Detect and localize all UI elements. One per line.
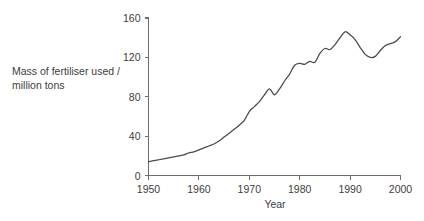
- y-tick-label: 120: [93, 52, 141, 63]
- x-axis-title: Year: [148, 198, 402, 210]
- y-axis-title: Mass of fertiliser used / million tons: [12, 64, 140, 92]
- axes-group: [149, 18, 401, 176]
- x-tick-marks: [149, 176, 401, 180]
- x-tick-label: 1960: [175, 184, 223, 195]
- x-tick-label: 2000: [377, 184, 424, 195]
- data-series-line: [149, 32, 401, 162]
- y-axis-title-line-2: million tons: [12, 78, 140, 92]
- x-tick-label: 1950: [125, 184, 173, 195]
- y-tick-label: 80: [93, 92, 141, 103]
- y-axis-title-line-1: Mass of fertiliser used /: [12, 64, 140, 78]
- y-tick-marks: [145, 18, 149, 176]
- y-tick-label: 160: [93, 13, 141, 24]
- y-tick-label: 40: [93, 131, 141, 142]
- fertiliser-usage-line-chart: 04080120160 195019601970198019902000 Mas…: [0, 0, 424, 221]
- y-tick-label: 0: [93, 171, 141, 182]
- x-tick-label: 1980: [276, 184, 324, 195]
- x-tick-label: 1970: [225, 184, 273, 195]
- x-tick-label: 1990: [326, 184, 374, 195]
